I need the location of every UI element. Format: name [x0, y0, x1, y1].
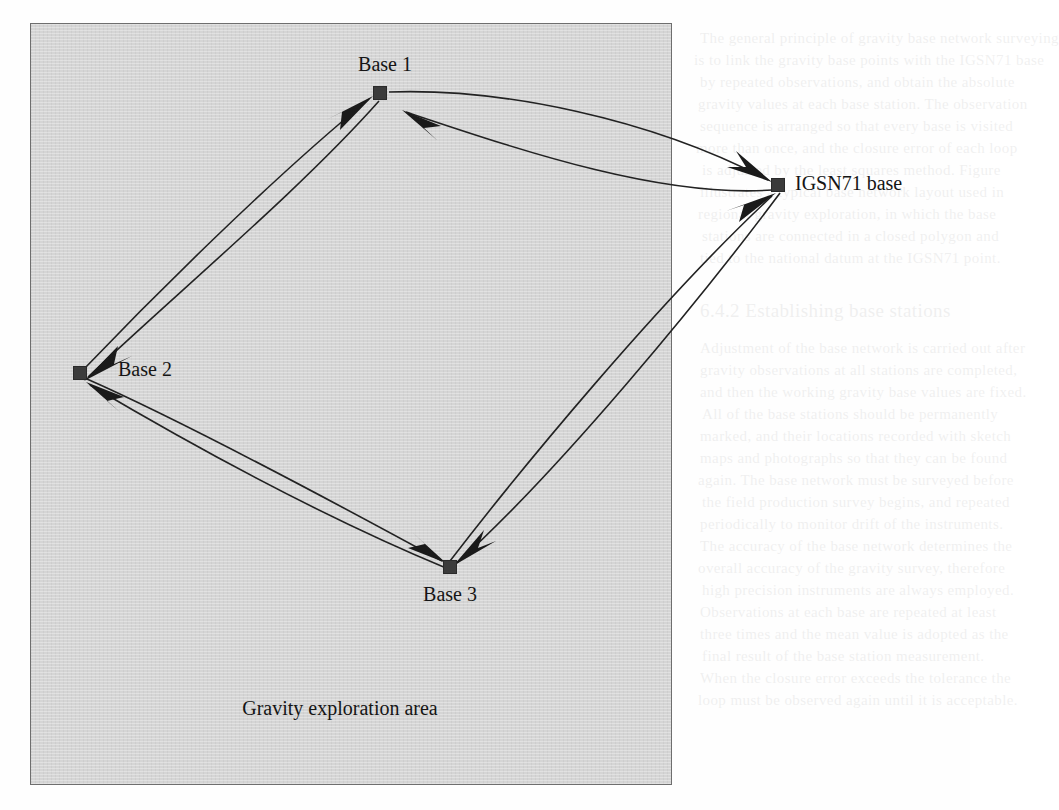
link-base1-to-base2	[84, 101, 379, 381]
node-label-igsn71: IGSN71 base	[795, 172, 902, 195]
link-base2-to-base3	[87, 379, 446, 563]
arrowhead-to-base1-from-igsn71	[402, 110, 441, 141]
arrowhead-to-base3-from-base2	[408, 532, 446, 563]
node-marker-base1[interactable]	[374, 87, 387, 100]
link-igsn71-to-base3	[453, 193, 780, 566]
node-label-base1: Base 1	[358, 53, 412, 76]
node-marker-igsn71[interactable]	[772, 179, 785, 192]
link-base1-to-igsn71	[389, 92, 772, 182]
node-marker-base3[interactable]	[444, 561, 457, 574]
node-label-base3: Base 3	[423, 583, 477, 606]
node-label-base2: Base 2	[118, 358, 172, 381]
area-caption: Gravity exploration area	[242, 697, 437, 720]
arrowhead-to-base1-from-base2	[326, 96, 373, 130]
link-base3-to-base2	[86, 382, 446, 568]
node-marker-base2[interactable]	[74, 367, 87, 380]
link-igsn71-to-base1	[402, 110, 772, 191]
link-base3-to-igsn71	[450, 193, 776, 561]
arrowhead-to-igsn71	[727, 151, 772, 182]
link-base2-to-base1	[84, 96, 373, 369]
